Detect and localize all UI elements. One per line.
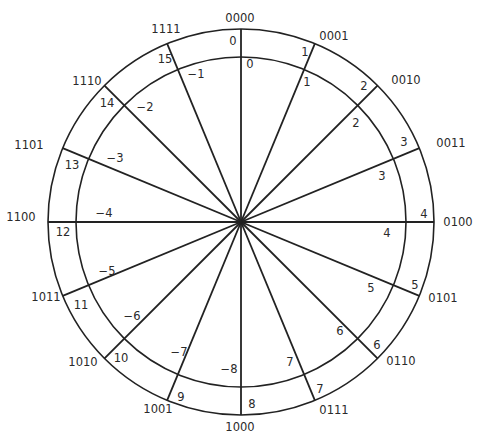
unsigned-label: 12 xyxy=(56,225,71,239)
unsigned-label: 15 xyxy=(158,52,173,66)
signed-label: −1 xyxy=(188,67,205,81)
binary-label: 0011 xyxy=(436,136,465,150)
unsigned-label: 5 xyxy=(411,278,418,292)
signed-label: −3 xyxy=(107,151,124,165)
unsigned-label: 13 xyxy=(65,158,80,172)
spoke-0010 xyxy=(241,86,377,222)
binary-label: 1011 xyxy=(31,290,60,304)
signed-label: 6 xyxy=(336,324,343,338)
segment-0110: 011066 xyxy=(336,324,415,368)
signed-label: 7 xyxy=(286,355,293,369)
signed-label: −8 xyxy=(221,362,238,376)
binary-label: 0110 xyxy=(386,354,415,368)
unsigned-label: 2 xyxy=(360,79,367,93)
binary-label: 1001 xyxy=(143,402,172,416)
signed-label: 4 xyxy=(383,226,390,240)
unsigned-label: 4 xyxy=(420,207,427,221)
number-wheel-diagram: 0000000001110010220011330100440101550110… xyxy=(0,0,478,441)
unsigned-label: 6 xyxy=(373,338,380,352)
spoke-0110 xyxy=(241,222,377,358)
binary-label: 1100 xyxy=(6,210,35,224)
binary-label: 1101 xyxy=(14,138,43,152)
signed-label: −2 xyxy=(137,100,154,114)
signed-label: 3 xyxy=(378,169,385,183)
binary-label: 0010 xyxy=(391,73,420,87)
binary-label: 0100 xyxy=(443,215,472,229)
segment-1111: 111115−1 xyxy=(151,22,204,81)
segment-1010: 101010−6 xyxy=(68,309,140,369)
signed-label: −4 xyxy=(96,206,113,220)
unsigned-label: 8 xyxy=(248,397,255,411)
segment-1011: 101111−5 xyxy=(31,264,115,312)
binary-label: 1111 xyxy=(151,22,180,36)
signed-label: 2 xyxy=(352,116,359,130)
binary-label: 1000 xyxy=(225,420,254,434)
spoke-1110 xyxy=(105,86,241,222)
signed-label: 5 xyxy=(367,281,374,295)
binary-label: 0001 xyxy=(319,29,348,43)
spokes xyxy=(48,29,434,415)
segment-0101: 010155 xyxy=(367,278,457,305)
segment-1000: 10008−8 xyxy=(221,362,256,434)
unsigned-label: 11 xyxy=(74,298,89,312)
unsigned-label: 14 xyxy=(100,96,115,110)
binary-label: 0000 xyxy=(225,11,254,25)
unsigned-label: 7 xyxy=(316,382,323,396)
signed-label: 1 xyxy=(303,75,310,89)
segment-0100: 010044 xyxy=(383,207,472,240)
binary-label: 1110 xyxy=(72,74,101,88)
signed-label: −6 xyxy=(124,309,141,323)
unsigned-label: 0 xyxy=(229,34,236,48)
signed-label: −5 xyxy=(99,264,116,278)
binary-label: 0111 xyxy=(319,403,348,417)
signed-label: −7 xyxy=(171,345,188,359)
unsigned-label: 3 xyxy=(400,135,407,149)
unsigned-label: 10 xyxy=(114,351,129,365)
spoke-1010 xyxy=(105,222,241,358)
binary-label: 1010 xyxy=(68,355,97,369)
unsigned-label: 1 xyxy=(301,45,308,59)
unsigned-label: 9 xyxy=(177,390,184,404)
binary-label: 0101 xyxy=(428,291,457,305)
signed-label: 0 xyxy=(246,57,253,71)
segment-0000: 000000 xyxy=(225,11,254,71)
